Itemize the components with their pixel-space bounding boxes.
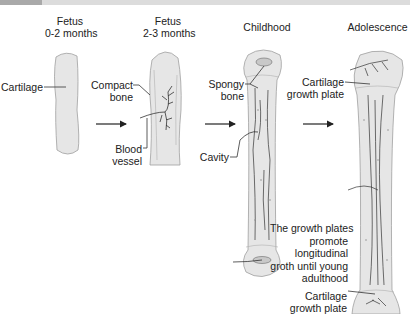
label-line: bone — [200, 90, 244, 102]
stage-title-adolescence: Adolescence — [345, 21, 410, 33]
stage-title-line2: 0-2 months — [45, 27, 95, 39]
label-blood-vessel: Blood vessel — [100, 143, 142, 167]
stage-title-line1: Fetus — [143, 15, 193, 27]
note-line: adulthood — [270, 272, 348, 285]
label-cartilage-growth-plate-bottom: Cartilage growth plate — [276, 290, 347, 314]
label-cartilage-growth-plate-top: Cartilage growth plate — [276, 76, 344, 100]
stage-title-line2: 2-3 months — [143, 27, 193, 39]
label-line: vessel — [100, 155, 142, 167]
blood-vessel-leader — [143, 118, 147, 148]
bone-fetus-0-2 — [55, 53, 79, 154]
stage-title-line1: Fetus — [45, 15, 95, 27]
label-line: Spongy — [200, 78, 244, 90]
stage-title-fetus-0-2: Fetus 0-2 months — [45, 15, 95, 39]
stage-title-fetus-2-3: Fetus 2-3 months — [143, 15, 193, 39]
label-line: bone — [88, 91, 133, 103]
label-line: Blood — [100, 143, 142, 155]
label-cartilage: Cartilage — [1, 81, 43, 93]
growth-plates-note: The growth plates promote longitudinal g… — [270, 222, 348, 285]
label-spongy-bone: Spongy bone — [200, 78, 244, 102]
label-cavity: Cavity — [190, 151, 229, 163]
compact-bone-leader — [133, 85, 150, 95]
note-line: groth until young — [270, 260, 348, 273]
label-line: growth plate — [276, 302, 347, 314]
label-line: Cartilage — [276, 290, 347, 302]
note-line: promote — [270, 235, 348, 248]
label-line: Cartilage — [276, 76, 344, 88]
label-line: Compact — [88, 79, 133, 91]
stage-title-line1: Childhood — [237, 21, 297, 33]
label-line: growth plate — [276, 88, 344, 100]
stage-title-line1: Adolescence — [345, 21, 410, 33]
bone-adolescence — [348, 51, 403, 314]
stage-title-childhood: Childhood — [237, 21, 297, 33]
note-line: longitudinal — [270, 247, 348, 260]
label-compact-bone: Compact bone — [88, 79, 133, 103]
note-line: The growth plates — [270, 222, 348, 235]
